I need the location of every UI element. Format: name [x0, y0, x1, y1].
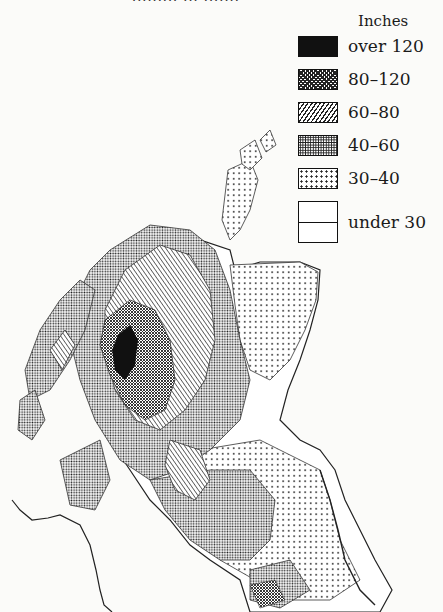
scotland-rainfall-map: [0, 0, 443, 612]
diagonal-lines-swatch-icon: [298, 102, 338, 123]
legend-item-40-60: 40–60: [298, 133, 400, 157]
sparse-dots-swatch-icon: [298, 168, 338, 189]
legend-label: 30–40: [348, 168, 400, 188]
legend-item-80-120: 80–120: [298, 67, 411, 91]
legend-label: under 30: [348, 212, 426, 232]
coastline-south-west: [12, 500, 112, 612]
legend-item-over-120: over 120: [298, 34, 424, 58]
zone-30-40-ne-isles: [222, 160, 258, 240]
legend-label: 80–120: [348, 69, 411, 89]
legend-title: Inches: [358, 12, 408, 30]
zone-40-60-southwest: [60, 440, 110, 510]
fine-dots-swatch-icon: [298, 135, 338, 156]
legend-label: 40–60: [348, 135, 400, 155]
solid-black-swatch-icon: [298, 36, 338, 57]
northern-isles: [240, 130, 276, 170]
legend-label: 60–80: [348, 102, 400, 122]
legend-item-60-80: 60–80: [298, 100, 400, 124]
legend-item-under-30: under 30: [298, 200, 426, 244]
crosshatch-swatch-icon: [298, 69, 338, 90]
zone-40-60-south: [150, 470, 275, 560]
legend-label: over 120: [348, 36, 424, 56]
blank-swatch-icon: [298, 201, 338, 243]
zone-40-60-islands: [18, 390, 45, 440]
legend-item-30-40: 30–40: [298, 166, 400, 190]
